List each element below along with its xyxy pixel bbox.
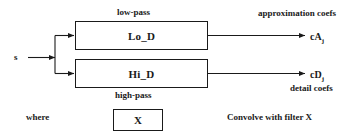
approximation-coefs-symbol: cAj bbox=[310, 31, 324, 42]
lowpass-annotation-label: low-pass bbox=[117, 8, 150, 17]
highpass-filter-box-label: Hi_D bbox=[76, 68, 207, 80]
legend-where-label: where bbox=[26, 113, 49, 122]
legend-description-label: Convolve with filter X bbox=[227, 113, 312, 122]
legend-filter-box: X bbox=[113, 109, 163, 131]
wavelet-decomposition-diagram: s low-pass Lo_D Hi_D high-pass approxima… bbox=[0, 0, 354, 136]
highpass-annotation-label: high-pass bbox=[115, 91, 152, 100]
lowpass-filter-box: Lo_D bbox=[75, 21, 208, 50]
legend-filter-box-label: X bbox=[114, 114, 162, 126]
detail-coefs-symbol-base: cD bbox=[310, 69, 322, 80]
highpass-filter-box: Hi_D bbox=[75, 59, 208, 88]
approximation-coefs-symbol-subscript: j bbox=[322, 37, 324, 45]
approximation-coefs-label: approximation coefs bbox=[258, 9, 336, 18]
approximation-coefs-symbol-base: cA bbox=[310, 31, 322, 42]
lowpass-filter-box-label: Lo_D bbox=[76, 30, 207, 42]
detail-coefs-label: detail coefs bbox=[290, 84, 333, 93]
detail-coefs-symbol-subscript: j bbox=[322, 75, 324, 83]
detail-coefs-symbol: cDj bbox=[310, 69, 324, 80]
input-signal-label: s bbox=[14, 53, 18, 62]
